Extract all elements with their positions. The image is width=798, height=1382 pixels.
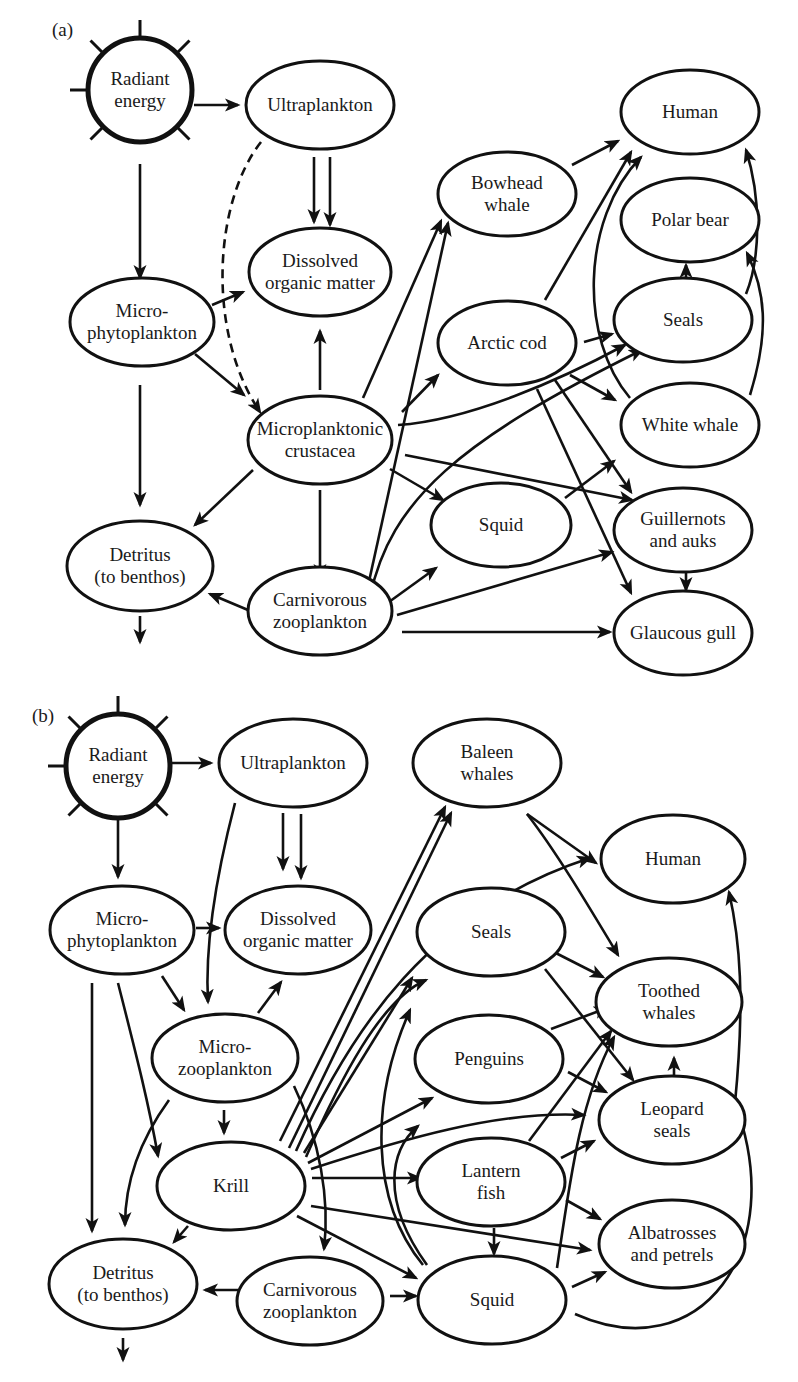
node-albatross: Albatrossesand petrels (599, 1200, 745, 1288)
node-seals: Seals (614, 278, 752, 362)
node-leopard: Leopardseals (599, 1076, 745, 1164)
node-detritus: Detritus(to benthos) (67, 521, 213, 611)
node-krill: Krill (157, 1142, 305, 1230)
node-label: Radiant (110, 68, 170, 89)
node-label: Krill (213, 1175, 249, 1196)
flow-arrow (195, 470, 253, 525)
node-label: organic matter (243, 930, 354, 951)
node-label: White whale (642, 414, 739, 435)
flow-arrow (566, 1200, 600, 1219)
node-human: Human (601, 815, 745, 903)
flow-arrow (258, 982, 281, 1013)
flow-arrow (572, 1272, 605, 1287)
flow-arrow (289, 813, 451, 1148)
node-label: Carnivorous (273, 589, 367, 610)
node-label: Albatrosses (628, 1222, 717, 1243)
node-label: Toothed (638, 980, 700, 1001)
node-label: Dissolved (260, 908, 337, 929)
flow-arrow (390, 469, 443, 500)
node-label: zooplankton (178, 1058, 272, 1079)
node-label: Microplanktonic (257, 418, 384, 439)
node-radiant: Radiantenergy (70, 20, 192, 142)
node-label: Leopard (640, 1098, 704, 1119)
panel-label: (b) (32, 705, 54, 727)
node-label: Guillernots (640, 508, 726, 529)
node-label: Micro- (96, 908, 149, 929)
flow-arrow (306, 980, 426, 1157)
node-label: (to benthos) (94, 566, 185, 588)
node-label: Penguins (454, 1048, 524, 1069)
node-label: Arctic cod (467, 332, 547, 353)
node-human: Human (621, 70, 759, 154)
node-label: Human (662, 101, 718, 122)
node-label: Squid (470, 1289, 515, 1310)
node-label: fish (477, 1182, 506, 1203)
node-crust: Microplanktoniccrustacea (248, 396, 392, 484)
node-bowhead: Bowheadwhale (438, 152, 576, 236)
node-cod: Arctic cod (438, 301, 576, 385)
flow-arrow (195, 354, 244, 395)
node-label: Micro- (116, 300, 169, 321)
sun-ray-icon (177, 127, 190, 140)
panel-b-antarctic-food-web: (b)RadiantenergyUltraplanktonBaleenwhale… (32, 696, 751, 1360)
node-label: crustacea (285, 440, 356, 461)
node-toothed: Toothedwhales (596, 958, 742, 1046)
node-microphyto: Micro-phytoplankton (50, 886, 194, 974)
node-label: Radiant (88, 744, 148, 765)
node-label: Polar bear (651, 209, 729, 230)
node-lantern: Lanternfish (417, 1138, 565, 1226)
sun-ray-icon (91, 41, 104, 54)
sun-ray-icon (69, 717, 82, 730)
flow-arrow (212, 292, 243, 305)
flow-arrow (162, 976, 184, 1010)
node-ultra: Ultraplankton (219, 719, 367, 807)
node-label: seals (654, 1120, 691, 1141)
node-label: Baleen (461, 741, 514, 762)
sun-ray-icon (155, 717, 168, 730)
node-squid: Squid (418, 1256, 566, 1344)
flow-arrow (572, 141, 618, 165)
node-label: energy (92, 766, 144, 787)
node-label: Ultraplankton (240, 752, 346, 773)
node-label: organic matter (265, 272, 376, 293)
node-radiant: Radiantenergy (48, 696, 170, 818)
node-label: (to benthos) (77, 1284, 168, 1306)
node-label: energy (114, 90, 166, 111)
node-dom: Dissolvedorganic matter (249, 228, 391, 316)
node-label: Human (645, 848, 701, 869)
sun-ray-icon (177, 41, 190, 54)
node-carni: Carnivorouszooplankton (248, 567, 392, 655)
node-microphyto: Micro-phytoplankton (70, 278, 214, 366)
node-seals: Seals (417, 888, 565, 976)
food-web-figure: (a)RadiantenergyUltraplanktonHumanBowhea… (0, 0, 798, 1382)
node-baleen: Baleenwhales (413, 719, 561, 807)
node-detritus: Detritus(to benthos) (49, 1239, 197, 1329)
node-label: and petrels (631, 1244, 714, 1265)
node-label: whales (461, 763, 514, 784)
flow-arrow (125, 1100, 169, 1225)
node-label: whales (643, 1002, 696, 1023)
flow-arrow (527, 814, 596, 863)
node-label: Seals (471, 921, 511, 942)
node-gull: Glaucous gull (614, 591, 752, 675)
node-carni: Carnivorouszooplankton (237, 1257, 383, 1345)
flow-arrow (584, 334, 612, 342)
flow-arrow (537, 389, 631, 593)
node-label: phytoplankton (67, 930, 177, 951)
node-squid: Squid (431, 483, 571, 567)
node-label: and auks (649, 530, 716, 551)
flow-arrow (570, 375, 615, 400)
node-label: Detritus (92, 1262, 153, 1283)
flow-arrow (174, 1226, 188, 1242)
node-label: Bowhead (471, 172, 543, 193)
node-label: Detritus (109, 544, 170, 565)
node-microzoo: Micro-zooplankton (152, 1014, 298, 1102)
node-polar: Polar bear (621, 178, 759, 262)
flow-arrow (555, 380, 631, 492)
panel-label: (a) (52, 19, 73, 41)
node-ultra: Ultraplankton (246, 61, 394, 149)
node-label: Lantern (461, 1160, 521, 1181)
node-label: Squid (479, 514, 524, 535)
node-label: phytoplankton (87, 322, 197, 343)
node-penguins: Penguins (415, 1015, 563, 1103)
